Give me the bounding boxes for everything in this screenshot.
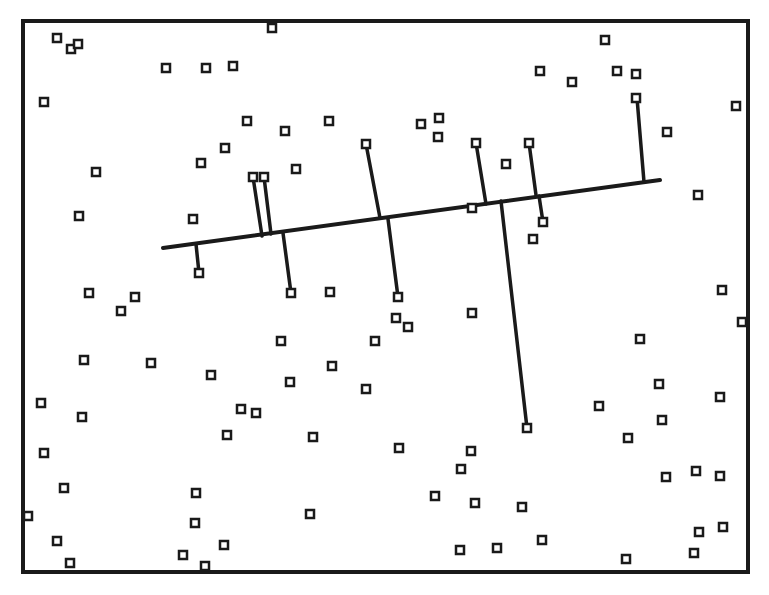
point-marker (191, 519, 199, 527)
point-marker (690, 549, 698, 557)
point-marker (287, 289, 295, 297)
point-marker (472, 139, 480, 147)
point-marker (663, 128, 671, 136)
point-marker (613, 67, 621, 75)
point-marker (435, 114, 443, 122)
point-marker (417, 120, 425, 128)
point-marker (197, 159, 205, 167)
point-marker (74, 40, 82, 48)
point-marker (457, 465, 465, 473)
point-marker (75, 212, 83, 220)
point-marker (636, 335, 644, 343)
point-marker (692, 467, 700, 475)
point-marker (286, 378, 294, 386)
point-marker (268, 24, 276, 32)
point-marker (162, 64, 170, 72)
projection-line (529, 143, 536, 195)
point-marker (529, 235, 537, 243)
point-marker (92, 168, 100, 176)
point-marker (362, 385, 370, 393)
projection-line (366, 144, 380, 218)
point-marker (518, 503, 526, 511)
point-marker (493, 544, 501, 552)
point-marker (371, 337, 379, 345)
point-marker (467, 447, 475, 455)
point-marker (718, 286, 726, 294)
point-marker (662, 473, 670, 481)
point-marker (309, 433, 317, 441)
point-marker (40, 98, 48, 106)
point-marker (78, 413, 86, 421)
point-marker (237, 405, 245, 413)
point-marker (117, 307, 125, 315)
point-marker (395, 444, 403, 452)
point-marker (189, 215, 197, 223)
projection-line (253, 177, 262, 236)
point-marker (24, 512, 32, 520)
point-marker (523, 424, 531, 432)
point-marker (202, 64, 210, 72)
projection-line (388, 219, 398, 297)
point-marker (252, 409, 260, 417)
point-marker (468, 204, 476, 212)
projection-lines (196, 98, 644, 428)
point-marker (632, 70, 640, 78)
projection-line (264, 177, 271, 234)
point-marker (192, 489, 200, 497)
projection-line (637, 98, 644, 182)
point-marker (601, 36, 609, 44)
query-line (163, 180, 660, 248)
point-marker (622, 555, 630, 563)
point-marker (468, 309, 476, 317)
point-marker (195, 269, 203, 277)
point-marker (249, 173, 257, 181)
point-marker (716, 472, 724, 480)
point-marker (525, 139, 533, 147)
point-marker (456, 546, 464, 554)
point-marker (281, 127, 289, 135)
point-marker (328, 362, 336, 370)
point-marker (131, 293, 139, 301)
point-marker (434, 133, 442, 141)
projection-line (501, 201, 527, 428)
point-marker (624, 434, 632, 442)
point-marker (40, 449, 48, 457)
point-marker (243, 117, 251, 125)
point-marker (60, 484, 68, 492)
point-marker (362, 140, 370, 148)
point-marker (306, 510, 314, 518)
point-marker (431, 492, 439, 500)
point-marker (223, 431, 231, 439)
point-marker (53, 537, 61, 545)
point-marker (392, 314, 400, 322)
point-marker (201, 562, 209, 570)
point-marker (694, 191, 702, 199)
point-marker (738, 318, 746, 326)
point-marker (229, 62, 237, 70)
point-marker (221, 144, 229, 152)
point-marker (538, 536, 546, 544)
point-marker (37, 399, 45, 407)
point-marker (658, 416, 666, 424)
point-marker (147, 359, 155, 367)
point-marker (655, 380, 663, 388)
point-marker (471, 499, 479, 507)
point-marker (716, 393, 724, 401)
point-marker (539, 218, 547, 226)
point-marker (260, 173, 268, 181)
point-marker (85, 289, 93, 297)
point-marker (502, 160, 510, 168)
point-marker (277, 337, 285, 345)
projection-line (283, 233, 291, 293)
point-marker (220, 541, 228, 549)
point-query-diagram (0, 0, 769, 595)
point-marker (326, 288, 334, 296)
point-marker (732, 102, 740, 110)
point-marker (53, 34, 61, 42)
point-marker (536, 67, 544, 75)
point-marker (404, 323, 412, 331)
point-marker (80, 356, 88, 364)
point-marker (695, 528, 703, 536)
point-marker (394, 293, 402, 301)
point-marker (595, 402, 603, 410)
